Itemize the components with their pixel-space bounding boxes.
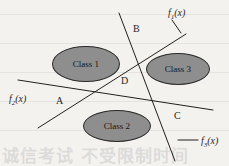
function-label-f2-suffix: (x): [15, 93, 26, 104]
leader-line-f1: [172, 20, 181, 33]
function-label-f1-suffix: (x): [174, 7, 185, 18]
class-label: Class 3: [146, 64, 210, 74]
class-label: Class 1: [52, 59, 120, 69]
region-label-c: C: [174, 111, 181, 121]
function-label-f2: f2(x): [9, 94, 26, 107]
class-ellipse-class-1: Class 1: [52, 46, 120, 82]
class-ellipse-class-2: Class 2: [83, 110, 151, 142]
region-label-d: D: [121, 76, 128, 86]
function-label-f3-suffix: (x): [207, 135, 218, 146]
class-ellipse-class-3: Class 3: [146, 53, 210, 85]
region-label-a: A: [56, 96, 63, 106]
function-label-f1: f1(x): [168, 8, 185, 21]
function-label-f3: f3(x): [201, 136, 218, 149]
class-label: Class 2: [83, 121, 151, 131]
figure-canvas: 诚信考试 不受限制时间 Class 1 Class 2 Class 3 A B …: [0, 0, 229, 166]
region-label-b: B: [133, 24, 140, 34]
